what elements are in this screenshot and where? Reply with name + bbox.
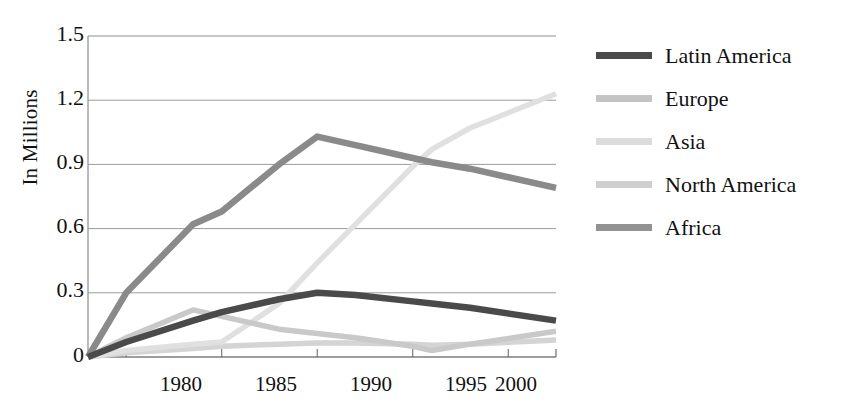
plot-area [0,0,600,412]
legend-label: Asia [665,131,705,153]
legend-label: Africa [665,217,721,239]
legend-item[interactable]: Europe [596,77,841,120]
legend-item[interactable]: North America [596,163,841,206]
chart-legend: Latin America Europe Asia North America … [596,34,841,249]
legend-item[interactable]: Asia [596,120,841,163]
legend-swatch-asia [596,138,652,145]
legend-item[interactable]: Africa [596,206,841,249]
line-chart-figure: In Millions 1.5 1.2 0.9 0.6 0.3 0 1980 1… [0,0,841,412]
legend-label: Europe [665,88,729,110]
series-lines [88,94,556,357]
legend-label: Latin America [665,45,791,67]
legend-item[interactable]: Latin America [596,34,841,77]
legend-swatch-europe [596,95,652,102]
legend-label: North America [665,174,796,196]
legend-swatch-north-america [596,181,652,188]
legend-swatch-africa [596,224,652,231]
legend-swatch-latin-america [596,52,652,59]
